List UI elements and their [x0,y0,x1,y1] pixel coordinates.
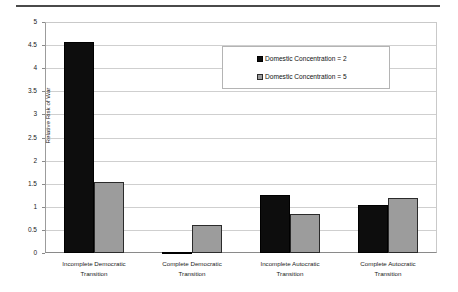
y-axis-tick-label: 4.5 [7,42,37,49]
bar [260,195,290,253]
category-label-line: Complete Democratic [137,259,247,269]
y-axis-tick [42,253,45,254]
y-axis-tick-label: 2.5 [7,135,37,142]
y-axis-tick [42,45,45,46]
category-label-line: Transition [39,269,149,279]
category-label-line: Incomplete Autocratic [235,259,345,269]
legend-item-series-1: Domestic Concentration = 5 [257,74,347,81]
y-axis-tick-label: 5 [7,19,37,26]
y-axis-tick-label: 0.5 [7,227,37,234]
legend-label: Domestic Concentration = 2 [265,56,347,63]
x-axis-category-label: Complete DemocraticTransition [137,259,247,278]
category-label-line: Incomplete Democratic [39,259,149,269]
y-axis-title: Relative Risk of War [44,61,51,171]
x-axis-category-label: Incomplete AutocraticTransition [235,259,345,278]
bar [388,198,418,253]
bar [192,225,222,253]
y-axis-tick-label: 4 [7,65,37,72]
y-axis-tick [42,184,45,185]
bar [358,205,388,253]
y-axis-tick [42,230,45,231]
category-label-line: Transition [235,269,345,279]
y-axis-tick-label: 0 [7,250,37,257]
black-square-swatch-icon [257,56,263,62]
gray-square-swatch-icon [257,74,263,80]
y-axis-tick-label: 2 [7,158,37,165]
y-axis-tick [42,207,45,208]
legend-label: Domestic Concentration = 5 [265,74,347,81]
legend: Domestic Concentration = 2 Domestic Conc… [222,46,390,89]
y-axis-tick-label: 1.5 [7,181,37,188]
bar [94,182,124,253]
legend-item-series-0: Domestic Concentration = 2 [257,56,347,63]
y-axis-tick [42,22,45,23]
x-axis-category-label: Complete AutocraticTransition [333,259,443,278]
bar-chart-figure: 00.511.522.533.544.55 Relative Risk of W… [0,0,458,292]
category-label-line: Transition [137,269,247,279]
y-axis-tick-label: 3 [7,111,37,118]
y-axis-tick-label: 1 [7,204,37,211]
y-axis-tick-label: 3.5 [7,88,37,95]
bar [64,42,94,253]
x-axis-category-label: Incomplete DemocraticTransition [39,259,149,278]
category-label-line: Complete Autocratic [333,259,443,269]
category-label-line: Transition [333,269,443,279]
bar [162,252,192,254]
bar [290,214,320,253]
